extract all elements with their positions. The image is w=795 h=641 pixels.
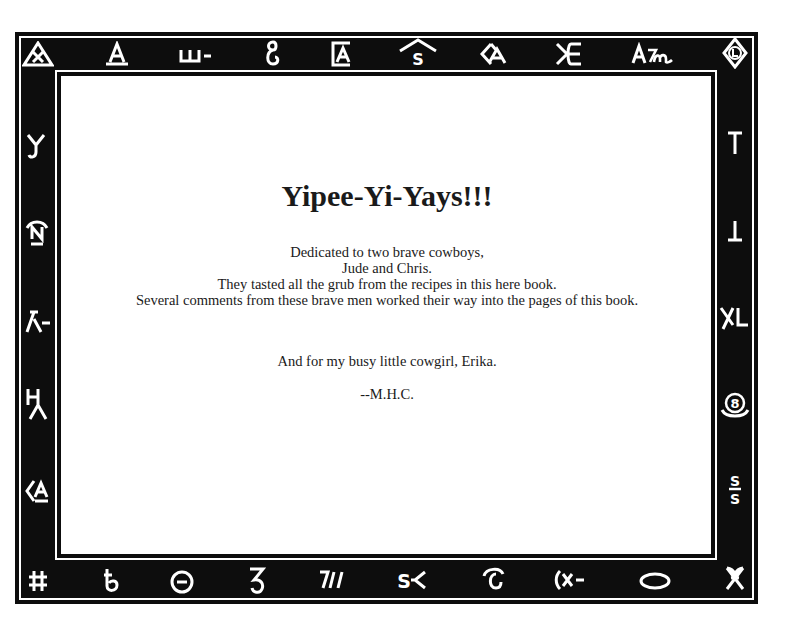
y-brand-icon [25, 132, 47, 160]
script-z-brand-icon [247, 565, 267, 595]
signature: --M.H.C. [59, 386, 715, 403]
dedication-line: Jude and Chris. [59, 260, 715, 276]
dedication-line: Dedicated to two brave cowboys, [59, 244, 715, 260]
svg-text:8: 8 [730, 396, 739, 411]
boxed-a-brand-icon [330, 40, 354, 68]
lambda-bar-brand-icon [24, 309, 52, 335]
inverted-t-brand-icon [726, 219, 744, 243]
svg-text:S: S [730, 473, 740, 489]
script-g-brand-icon [263, 38, 283, 68]
xl-brand-icon [719, 305, 751, 333]
diamond-l-brand-icon [722, 37, 748, 69]
paren-x-bar-brand-icon [554, 568, 586, 592]
rocking-c-brand-icon [482, 566, 506, 594]
less-than-a-brand-icon [24, 477, 52, 505]
n-rocker-brand-icon [25, 218, 49, 248]
dedication-page: Yipee-Yi-Yays!!! Dedicated to two brave … [59, 74, 715, 558]
a-brand-icon [103, 41, 131, 67]
dedication-line: They tasted all the grub from the recipe… [59, 276, 715, 292]
secondary-dedication: And for my busy little cowgirl, Erika. [59, 353, 715, 370]
hash-brand-icon [27, 569, 49, 593]
s-lazy-y-brand-icon: S [397, 569, 427, 591]
svg-text:S: S [412, 50, 424, 67]
script-ampersand-brand-icon [723, 565, 747, 593]
script-t-brand-icon [101, 566, 121, 594]
seven-bars-brand-icon [318, 569, 346, 591]
s-bar-s-brand-icon: SS [727, 471, 743, 507]
h-lambda-brand-icon [24, 387, 50, 421]
t-brand-icon [726, 130, 744, 156]
circle-8-brand-icon: 8 [720, 390, 750, 420]
roof-s-brand-icon: S [398, 37, 438, 67]
x-e-brand-icon [554, 41, 584, 67]
oval-brand-icon [638, 571, 672, 591]
e-bar-brand-icon [179, 48, 213, 64]
dedication-text: Dedicated to two brave cowboys, Jude and… [59, 244, 715, 308]
page-title: Yipee-Yi-Yays!!! [59, 179, 715, 213]
dedication-line: Several comments from these brave men wo… [59, 292, 715, 308]
circle-bar-brand-icon [169, 569, 195, 595]
triangle-x-brand-icon [22, 41, 54, 67]
svg-text:S: S [397, 570, 411, 591]
svg-text:S: S [730, 491, 740, 507]
am-brand-icon [630, 42, 678, 66]
diamond-a-brand-icon [479, 41, 509, 67]
